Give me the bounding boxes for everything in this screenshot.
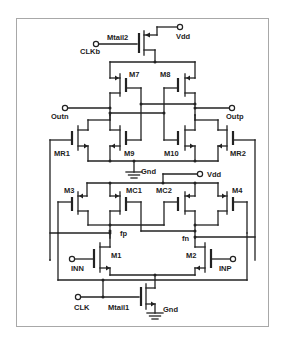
label-clk: CLK — [74, 303, 90, 312]
transistor-mr1 — [50, 115, 110, 260]
label-fp: fp — [120, 229, 127, 238]
inp-terminal — [230, 256, 235, 261]
label-vdd-top: Vdd — [176, 32, 191, 41]
clkb-terminal — [93, 41, 98, 46]
label-mr1: MR1 — [54, 149, 70, 158]
label-vdd-mid: Vdd — [207, 170, 222, 179]
label-mr2: MR2 — [230, 149, 246, 158]
inn-terminal — [69, 256, 74, 261]
label-m1: M1 — [111, 251, 121, 260]
label-inn: INN — [71, 264, 84, 273]
circuit-schematic: Mtail2 Vdd CLKb M7 M8 Outn O — [0, 0, 283, 340]
transistor-mtail1 — [75, 275, 163, 319]
transistor-m7 — [110, 74, 141, 115]
transistor-mtail2 — [93, 24, 182, 62]
vdd-mid-terminal — [197, 171, 202, 176]
gnd-mid-symbol — [126, 161, 142, 178]
label-m10: M10 — [164, 149, 179, 158]
clk-terminal — [75, 294, 80, 299]
label-fn: fn — [182, 234, 189, 243]
label-outp: Outp — [226, 112, 244, 121]
label-mc1: MC1 — [126, 186, 142, 195]
label-m2: M2 — [186, 251, 196, 260]
label-m7: M7 — [129, 70, 139, 79]
label-m3: M3 — [64, 186, 74, 195]
vdd-top-terminal — [177, 24, 182, 29]
label-gnd-mid: Gnd — [141, 167, 156, 176]
label-m8: M8 — [160, 70, 170, 79]
outn-terminal — [62, 105, 67, 110]
label-mc2: MC2 — [156, 186, 172, 195]
label-outn: Outn — [51, 112, 69, 121]
label-inp: INP — [219, 264, 232, 273]
label-m9: M9 — [124, 149, 134, 158]
label-mtail2: Mtail2 — [107, 33, 128, 42]
transistor-mr2 — [195, 115, 255, 260]
transistor-m8 — [164, 74, 195, 115]
label-m4: M4 — [232, 186, 243, 195]
label-gnd-bottom: Gnd — [163, 305, 178, 314]
label-clkb: CLKb — [80, 47, 100, 56]
label-mtail1: Mtail1 — [108, 303, 129, 312]
outp-terminal — [229, 105, 234, 110]
